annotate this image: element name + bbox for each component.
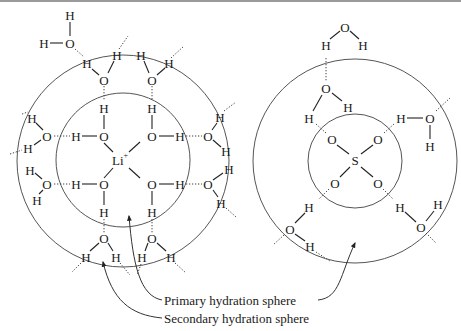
svg-text:H: H (164, 56, 173, 71)
svg-text:H: H (221, 144, 230, 159)
svg-text:H: H (71, 129, 80, 144)
svg-text:O: O (203, 177, 212, 192)
svg-text:H: H (39, 36, 48, 51)
svg-text:H: H (71, 177, 80, 192)
svg-text:H: H (215, 110, 224, 125)
svg-text:O: O (330, 176, 339, 191)
svg-text:H: H (99, 205, 108, 220)
svg-text:O: O (42, 177, 51, 192)
svg-text:H: H (304, 200, 313, 215)
primary-sphere-label: Primary hydration sphere (164, 293, 296, 308)
secondary-arrow (103, 262, 162, 318)
svg-text:O: O (147, 231, 156, 246)
svg-text:H: H (425, 139, 434, 154)
svg-text:H: H (111, 250, 120, 265)
svg-text:O: O (373, 132, 382, 147)
svg-text:H: H (112, 48, 121, 63)
sulfate-ion-hydration: S O O O O H O H O H H H O H H (253, 20, 457, 264)
primary-water-oxygen: O (147, 177, 156, 192)
svg-text:H: H (166, 250, 175, 265)
svg-text:H: H (304, 111, 313, 126)
svg-text:H: H (82, 56, 91, 71)
svg-text:H: H (136, 48, 145, 63)
primary-water-oxygen: O (147, 129, 156, 144)
svg-text:O: O (416, 220, 425, 235)
svg-text:H: H (81, 250, 90, 265)
svg-text:H: H (305, 239, 314, 254)
svg-text:H: H (175, 177, 184, 192)
svg-text:H: H (224, 162, 233, 177)
svg-text:O: O (99, 73, 108, 88)
svg-text:H: H (396, 111, 405, 126)
svg-text:H: H (433, 197, 442, 212)
svg-text:H: H (99, 101, 108, 116)
svg-text:O: O (65, 36, 74, 51)
li-ion-label: Li+ (112, 151, 129, 168)
svg-text:H: H (147, 101, 156, 116)
hydration-spheres-diagram: Li+ O O O O H H H H H H H H (0, 0, 461, 331)
svg-text:O: O (42, 129, 51, 144)
primary-water-oxygen: O (99, 129, 108, 144)
svg-text:H: H (321, 38, 330, 53)
primary-water-oxygen: O (99, 177, 108, 192)
svg-text:H: H (25, 163, 34, 178)
secondary-sphere-label: Secondary hydration sphere (164, 311, 309, 326)
svg-text:H: H (175, 129, 184, 144)
svg-text:O: O (327, 132, 336, 147)
svg-text:H: H (343, 100, 352, 115)
annotations: Primary hydration sphere Secondary hydra… (103, 216, 355, 326)
svg-text:O: O (373, 176, 382, 191)
svg-text:O: O (285, 222, 294, 237)
svg-text:H: H (216, 196, 225, 211)
svg-text:O: O (99, 231, 108, 246)
primary-arrow-right (318, 243, 355, 300)
svg-text:H: H (358, 38, 367, 53)
svg-text:O: O (321, 81, 330, 96)
svg-text:O: O (147, 73, 156, 88)
svg-text:H: H (23, 141, 32, 156)
svg-text:O: O (425, 111, 434, 126)
svg-text:H: H (32, 193, 41, 208)
svg-text:H: H (65, 8, 74, 23)
svg-text:O: O (340, 20, 349, 35)
svg-text:O: O (203, 129, 212, 144)
sulfur-atom: S (351, 153, 358, 168)
svg-text:H: H (27, 111, 36, 126)
svg-text:H: H (137, 250, 146, 265)
svg-text:H: H (147, 205, 156, 220)
lithium-ion-hydration: Li+ O O O O H H H H H H H H (10, 8, 236, 276)
svg-text:H: H (395, 200, 404, 215)
